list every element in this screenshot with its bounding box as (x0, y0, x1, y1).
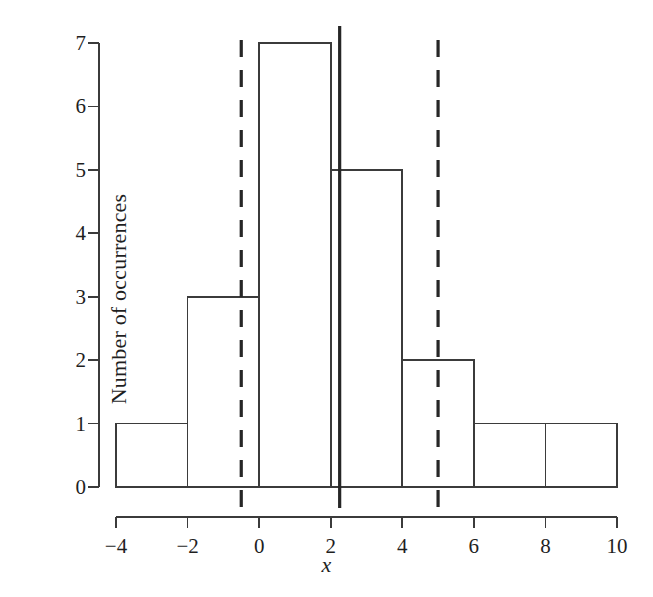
y-tick-label: 0 (58, 477, 86, 498)
histogram-bars (116, 43, 617, 487)
y-axis (88, 43, 99, 487)
y-tick-label: 5 (58, 159, 86, 180)
histogram-figure: 01234567 −4−20246810 Number of occurrenc… (0, 0, 653, 597)
histogram-bar (331, 170, 403, 487)
y-axis-label: Number of occurrences (106, 193, 132, 404)
x-axis (116, 517, 617, 528)
y-tick-label: 1 (58, 413, 86, 434)
y-tick-label: 6 (58, 96, 86, 117)
histogram-bar (545, 424, 617, 487)
histogram-bar (474, 424, 546, 487)
y-tick-label: 4 (58, 223, 86, 244)
x-axis-label: x (0, 552, 653, 578)
y-tick-label: 7 (58, 33, 86, 54)
histogram-bar (116, 424, 188, 487)
y-tick-label: 3 (58, 286, 86, 307)
y-tick-label: 2 (58, 350, 86, 371)
plot-canvas (0, 0, 653, 597)
histogram-bar (259, 43, 331, 487)
histogram-bar (188, 297, 260, 487)
